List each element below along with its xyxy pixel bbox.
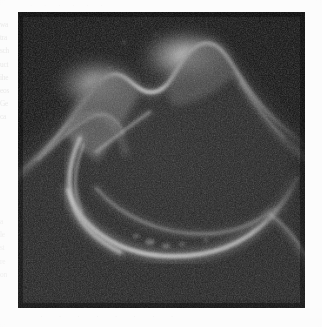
ghost-line: wa (0, 18, 18, 31)
ghost-text-left-margin-lower: a le st re on (0, 215, 18, 310)
coarse-grain-overlay (18, 12, 305, 308)
ghost-line: ihe (0, 71, 18, 84)
ghost-line: uct (0, 58, 18, 71)
ghost-line: a (0, 215, 17, 228)
figure-page: · · · · · · wa tra sch uct ihe eos Ge ca… (0, 0, 322, 327)
ghost-line: tra (0, 31, 18, 44)
ghost-line: sch (0, 44, 18, 57)
ghost-line: on (0, 268, 17, 281)
ghost-line: le (0, 228, 17, 241)
ghost-line: Ge (0, 97, 18, 110)
micrograph-image (18, 12, 305, 308)
ghost-text-left-margin: wa tra sch uct ihe eos Ge ca (0, 18, 20, 198)
micrograph-panel (18, 12, 305, 308)
ghost-line: eos (0, 84, 18, 97)
ghost-line: re (0, 255, 17, 268)
ghost-line: ca (0, 110, 18, 123)
ghost-text-top-strip: · · · · · · (30, 2, 300, 11)
ghost-line: st (0, 241, 17, 254)
ghost-text-bottom-strip: · · · · · · · · (40, 312, 300, 324)
